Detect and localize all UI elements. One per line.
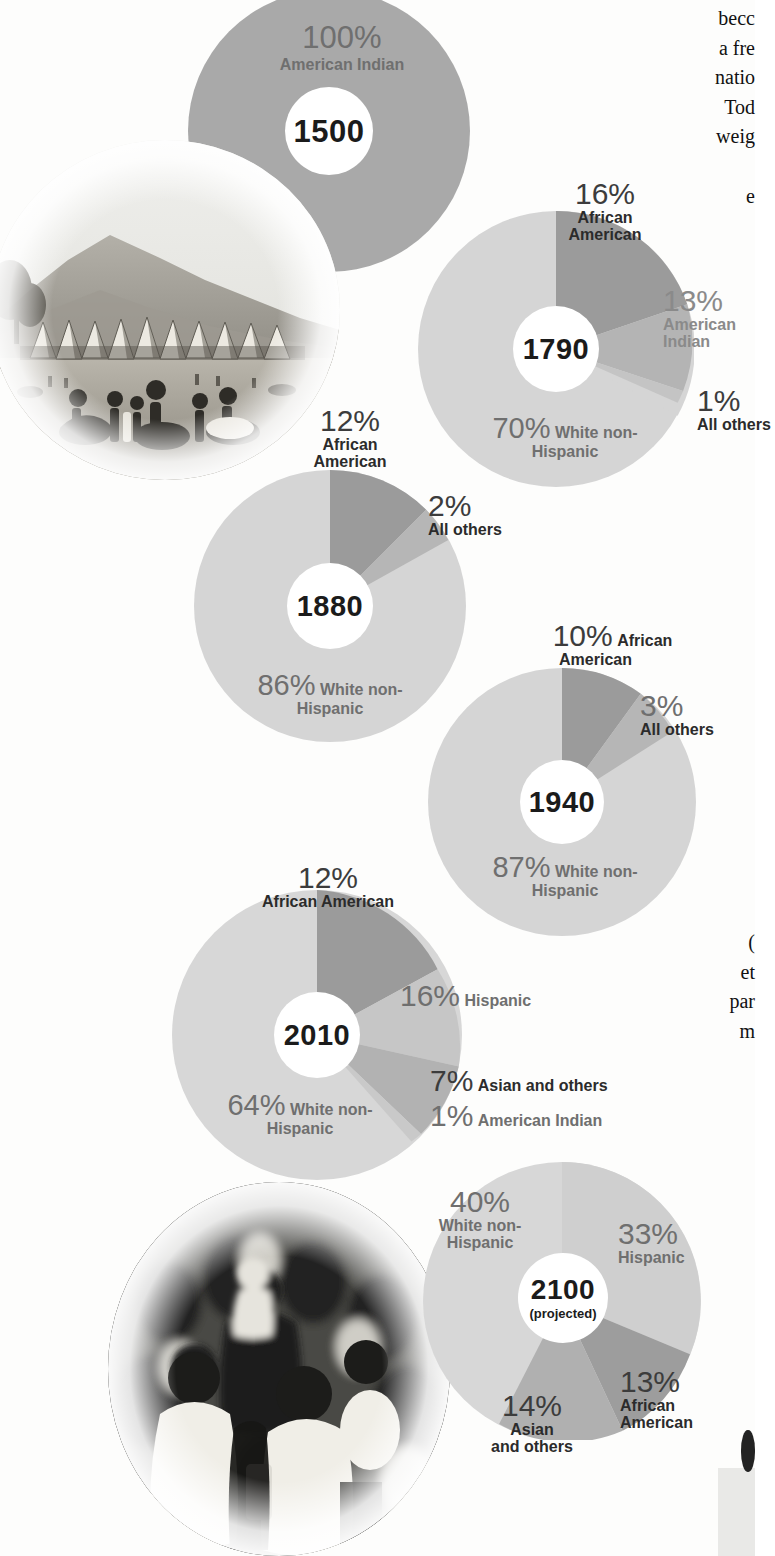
label-2100-asian-and-others: 14% Asian and others (452, 1390, 612, 1456)
label-1880-all-others: 2% All others (428, 490, 578, 539)
body-text-mid-bottom: ( et par m (600, 928, 755, 1046)
page-corner-panel (718, 1468, 755, 1556)
year-label-2100: 2100 (531, 1276, 595, 1304)
label-1940-white-non-hispanic: 87% White non-Hispanic (465, 852, 665, 900)
donut-hub-2100: 2100 (projected) (518, 1253, 608, 1343)
donut-hub-1880: 1880 (287, 563, 373, 649)
body-text-mid-top: e (600, 182, 755, 212)
body-line: natio (575, 63, 755, 93)
donut-hub-1940: 1940 (520, 760, 604, 844)
body-line: becc (575, 4, 755, 34)
label-2100-white-non-hispanic: 40% White non- Hispanic (400, 1186, 560, 1252)
label-1880-white-non-hispanic: 86% White non-Hispanic (230, 670, 430, 718)
label-1790-american-indian: 13% American Indian (663, 285, 775, 351)
year-label-1790: 1790 (523, 335, 590, 364)
body-line: a fre (575, 34, 755, 64)
body-line: e (600, 182, 755, 212)
body-line: ( (600, 928, 755, 958)
page-corner-mark (741, 1430, 755, 1472)
year-label-1940: 1940 (529, 788, 596, 817)
label-2010-white-non-hispanic: 64% White non-Hispanic (200, 1090, 400, 1138)
body-line: et (600, 958, 755, 988)
label-2100-african-american: 13% African American (620, 1366, 750, 1432)
label-1790-all-others: 1% All others (697, 385, 775, 434)
label-1880-african-american: 12% African American (285, 405, 415, 471)
body-text-top: becc a fre natio Tod weig (575, 4, 755, 152)
label-1940-all-others: 3% All others (640, 690, 775, 739)
year-label-1880: 1880 (297, 592, 364, 621)
label-1940-african-american: 10% African American (505, 620, 720, 669)
body-line: Tod (575, 93, 755, 123)
year-label-2010: 2010 (284, 1021, 351, 1050)
label-1500-american-indian: 100% American Indian (247, 22, 437, 74)
label-2010-asian-and-others: 7% Asian and others (430, 1065, 660, 1097)
label-2010-african-american: 12% African American (218, 862, 438, 911)
label-2010-american-indian: 1% American Indian (430, 1100, 660, 1132)
year-sublabel-2100: (projected) (529, 1307, 596, 1320)
label-2010-hispanic: 16% Hispanic (400, 980, 590, 1012)
crowd-image (108, 1182, 450, 1556)
label-2100-hispanic: 33% Hispanic (618, 1218, 738, 1267)
crowd-photo-svg (108, 1182, 450, 1556)
donut-hub-1500: 1500 (285, 87, 373, 175)
body-line: m (600, 1017, 755, 1047)
label-1790-white-non-hispanic: 70% White non-Hispanic (470, 413, 660, 461)
donut-hub-1790: 1790 (513, 306, 599, 392)
donut-hub-2010: 2010 (274, 992, 360, 1078)
year-label-1500: 1500 (294, 116, 365, 147)
body-line: par (600, 987, 755, 1017)
body-line: weig (575, 122, 755, 152)
